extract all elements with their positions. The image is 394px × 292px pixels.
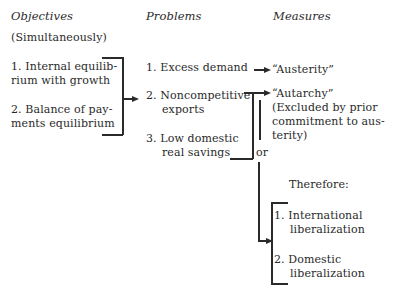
objective-1-line2: rium with growth [11, 73, 110, 88]
liberalization-bracket-bottom [271, 283, 288, 285]
or-connector-upper [259, 100, 261, 140]
objectives-header: Objectives [11, 9, 73, 24]
objectives-arrow-icon [132, 96, 139, 102]
autarchy-note-line1: (Excluded by prior [272, 100, 378, 115]
problems-bracket-vertical [252, 92, 254, 159]
problem-2-line1: 2. Noncompetitive [146, 88, 250, 103]
autarchy-note-line2: commitment to aus- [272, 114, 385, 129]
problem-1: 1. Excess demand [146, 60, 248, 75]
autarchy-arrow-icon [264, 90, 271, 96]
or-connector-lower [258, 162, 260, 241]
problem-3-line1: 3. Low domestic [146, 131, 239, 146]
therefore-label: Therefore: [289, 177, 349, 192]
austerity-arrow-icon [264, 67, 271, 73]
liberalization-1-line2: liberalization [290, 222, 365, 237]
objectives-bracket-top [102, 57, 123, 59]
problem-2-line2: exports [162, 102, 204, 117]
measure-austerity: “Austerity” [272, 62, 334, 77]
problems-header: Problems [146, 9, 202, 24]
objective-1-line1: 1. Internal equilib- [11, 59, 117, 74]
liberalization-1-line1: 1. International [274, 208, 363, 223]
liberalization-2-line1: 2. Domestic [274, 252, 341, 267]
objective-2-line1: 2. Balance of pay- [11, 102, 112, 117]
problems-bracket-bottom [230, 158, 253, 160]
objective-2-line2: ments equilibrium [11, 116, 115, 131]
objectives-qualifier: (Simultaneously) [11, 30, 107, 45]
autarchy-note-line3: terity) [272, 128, 307, 143]
problem-3-line2: real savings [162, 145, 230, 160]
measures-header: Measures [273, 9, 331, 24]
liberalization-bracket-vertical [271, 202, 273, 284]
liberalization-bracket-top [271, 202, 288, 204]
objectives-bracket-vertical [122, 57, 124, 135]
objectives-bracket-bottom [102, 134, 123, 136]
liberalization-2-line2: liberalization [290, 266, 365, 281]
measure-autarchy: “Autarchy” [272, 86, 334, 101]
or-label: or [256, 145, 268, 160]
